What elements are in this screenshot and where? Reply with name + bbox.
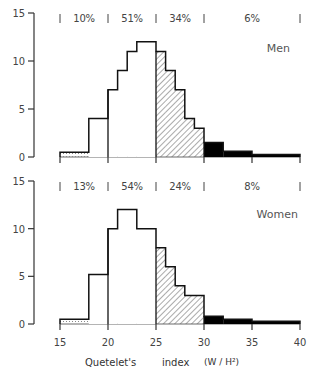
histogram-bar [89, 119, 108, 157]
histogram-bar [127, 51, 137, 157]
y-tick-label: 5 [19, 270, 25, 283]
histogram-bar [204, 143, 223, 157]
histogram-bar [185, 295, 204, 324]
group-percentage-label: 34% [169, 13, 190, 24]
histogram-bar [118, 71, 128, 157]
group-percentage-label: 51% [121, 13, 142, 24]
histogram-bar [118, 210, 137, 324]
histogram-bar [204, 316, 223, 324]
group-percentage-label: 13% [73, 181, 94, 192]
x-axis-title-units: (W / H²) [204, 357, 239, 367]
histogram-bar [156, 248, 166, 324]
group-percentage-label: 54% [121, 181, 142, 192]
men-panel: 05101510%51%34%6%Men [12, 7, 300, 164]
panel-title: Women [257, 208, 298, 221]
histogram-figure: 05101510%51%34%6%Men 0510151520253035401… [0, 0, 312, 376]
x-tick-label: 40 [294, 336, 307, 349]
histogram-bar [175, 90, 185, 157]
group-percentage-label: 8% [244, 181, 259, 192]
histogram-bar [156, 51, 166, 157]
y-tick-label: 15 [12, 7, 25, 20]
histogram-bar [137, 229, 156, 324]
histogram-bar [185, 119, 195, 157]
x-tick-label: 35 [246, 336, 259, 349]
histogram-bar [89, 274, 108, 324]
x-axis-title-word-2: index [162, 357, 189, 368]
group-percentage-label: 6% [244, 13, 259, 24]
histogram-bar [108, 90, 118, 157]
x-axis-title: Quetelet's index (W / H²) [85, 357, 239, 368]
x-tick-label: 20 [102, 336, 115, 349]
y-tick-label: 0 [19, 151, 25, 164]
histogram-bar [137, 42, 156, 157]
y-tick-label: 10 [12, 223, 25, 236]
histogram-bar [166, 71, 176, 157]
women-panel: 05101515202530354013%54%24%8%Women [12, 175, 306, 349]
histogram-bar [223, 151, 252, 157]
y-tick-label: 10 [12, 55, 25, 68]
histogram-bar [175, 286, 185, 324]
histogram-bar [108, 229, 118, 324]
y-tick-label: 0 [19, 318, 25, 331]
x-axis-title-word-1: Quetelet's [85, 357, 136, 368]
histogram-bar [166, 267, 176, 324]
histogram-bar [194, 128, 204, 157]
panel-title: Men [267, 42, 290, 55]
y-tick-label: 15 [12, 175, 25, 188]
x-tick-label: 25 [150, 336, 163, 349]
x-tick-label: 30 [198, 336, 211, 349]
x-tick-label: 15 [54, 336, 67, 349]
y-tick-label: 5 [19, 103, 25, 116]
group-percentage-label: 24% [169, 181, 190, 192]
group-percentage-label: 10% [73, 13, 94, 24]
